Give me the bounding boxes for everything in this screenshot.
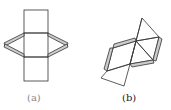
top-square bbox=[24, 10, 48, 33]
right-upper-flap bbox=[48, 33, 68, 46]
left-flap bbox=[104, 48, 113, 71]
bottom-square bbox=[24, 57, 48, 81]
left-upper-flap bbox=[4, 33, 24, 46]
top-flap bbox=[113, 38, 136, 48]
right-lower-flap bbox=[48, 44, 68, 57]
figure-canvas bbox=[0, 0, 171, 110]
right-flap bbox=[153, 37, 162, 61]
panel-b-label: (b) bbox=[122, 92, 136, 103]
panel-a-label: (a) bbox=[27, 92, 41, 103]
left-lower-flap bbox=[4, 44, 24, 57]
panel-b-net bbox=[101, 18, 162, 86]
middle-square bbox=[24, 33, 48, 57]
bottom-flap bbox=[130, 60, 154, 67]
panel-a-net bbox=[4, 10, 68, 81]
